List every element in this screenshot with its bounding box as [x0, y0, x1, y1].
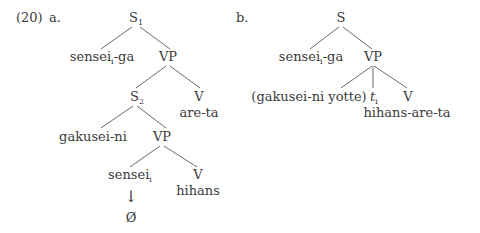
node-subject-b: senseii-ga	[279, 50, 343, 64]
edge-vp-v	[374, 66, 407, 88]
edge-vp-v	[170, 66, 200, 88]
word-are-ta: are-ta	[179, 106, 218, 120]
node-s: S	[337, 11, 346, 25]
node-s2: S2	[130, 90, 144, 104]
node-vp-b: VP	[364, 50, 382, 64]
node-v: V	[194, 90, 203, 104]
node-v-b: V	[403, 90, 412, 104]
down-arrow-icon: ↓	[124, 188, 137, 206]
edge-s1-vp	[140, 27, 170, 49]
node-s1: S1	[129, 11, 143, 25]
edge-s-vp	[343, 27, 372, 49]
node-object: gakusei-ni	[59, 130, 127, 144]
node-embedded-subject: senseii	[108, 168, 152, 182]
edge-vp-agent	[341, 66, 372, 88]
node-embedded-v: V	[193, 168, 202, 182]
panel-a-label: a.	[49, 11, 61, 25]
edge-s2-vp	[137, 106, 166, 128]
word-hihans-are-ta: hihans-are-ta	[363, 106, 450, 120]
node-vp: VP	[159, 50, 177, 64]
node-trace: ti	[370, 90, 378, 104]
null-element: Ø	[126, 211, 137, 225]
node-embedded-vp: VP	[153, 130, 171, 144]
node-subject: senseii-ga	[70, 50, 134, 64]
edge-vp2-v	[164, 146, 197, 167]
edge-s-subj	[310, 27, 339, 49]
edge-s1-subj	[101, 27, 132, 49]
node-agent: (gakusei-ni yotte)	[251, 90, 366, 104]
edge-vp-s2	[136, 66, 166, 88]
panel-b-label: b.	[236, 11, 248, 25]
example-number: (20)	[16, 11, 43, 25]
edge-s2-obj	[101, 106, 133, 128]
word-hihans: hihans	[176, 184, 220, 198]
edge-vp2-subj	[130, 146, 160, 167]
